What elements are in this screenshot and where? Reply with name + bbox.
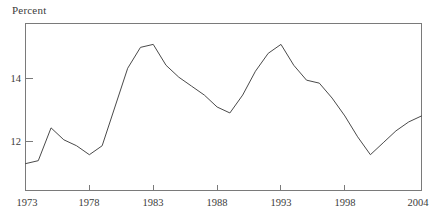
plot-frame	[26, 24, 422, 191]
chart-container: Percent 14 12 1973 1978 1983 1988 1993	[0, 0, 437, 219]
y-axis-ticks	[26, 79, 33, 142]
y-tick-label-14: 14	[11, 73, 22, 84]
y-tick-label-12: 12	[11, 136, 22, 147]
x-tick-label-1993: 1993	[271, 197, 292, 208]
x-tick-label-1973: 1973	[17, 197, 38, 208]
line-chart-plot: 14 12 1973 1978 1983 1988 1993 1998 2004	[0, 0, 437, 219]
data-series-line	[26, 44, 422, 163]
x-tick-label-2004: 2004	[408, 197, 430, 208]
x-tick-label-1988: 1988	[207, 197, 228, 208]
x-tick-label-1998: 1998	[335, 197, 356, 208]
x-tick-label-1983: 1983	[143, 197, 164, 208]
x-axis-ticks	[26, 185, 422, 191]
x-tick-label-1978: 1978	[79, 197, 100, 208]
